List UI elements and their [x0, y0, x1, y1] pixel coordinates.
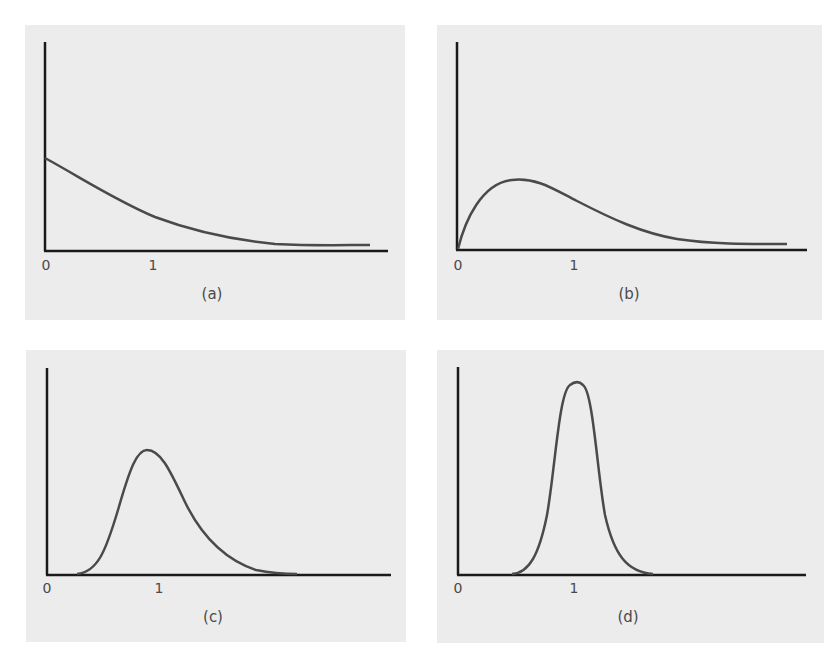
tick-label-1: 1: [570, 580, 579, 596]
tick-label-0: 0: [454, 580, 463, 596]
panel-label: (a): [202, 285, 223, 303]
chart-b-plot: [437, 25, 822, 320]
density-curve: [458, 180, 787, 249]
panel-a: 0 1 (a): [25, 25, 405, 320]
tick-label-1: 1: [155, 580, 164, 596]
panel-label: (b): [618, 285, 639, 303]
panel-d: 0 1 (d): [437, 350, 824, 643]
panel-c: 0 1 (c): [26, 350, 406, 642]
density-curve: [512, 382, 653, 574]
density-curve: [45, 158, 370, 245]
tick-label-1: 1: [570, 257, 579, 273]
chart-a-plot: [25, 25, 405, 320]
chart-d-plot: [437, 350, 824, 643]
density-curve: [77, 450, 297, 574]
tick-label-1: 1: [149, 257, 158, 273]
chart-c-plot: [26, 350, 406, 642]
tick-label-0: 0: [43, 580, 52, 596]
panel-b: 0 1 (b): [437, 25, 822, 320]
tick-label-0: 0: [454, 257, 463, 273]
panel-label: (c): [203, 608, 223, 626]
panel-label: (d): [617, 608, 638, 626]
tick-label-0: 0: [42, 257, 51, 273]
